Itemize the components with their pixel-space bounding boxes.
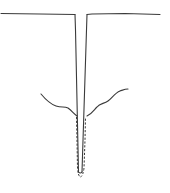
wavy-profile-left <box>41 94 77 116</box>
surface-line-left <box>1 14 75 15</box>
trench-wall-right <box>82 15 87 173</box>
surface-line-right <box>87 14 160 15</box>
trench-bottom <box>79 172 83 173</box>
wavy-profile-right <box>87 89 128 116</box>
trench-diagram <box>0 0 170 193</box>
diagram-canvas <box>0 0 170 193</box>
